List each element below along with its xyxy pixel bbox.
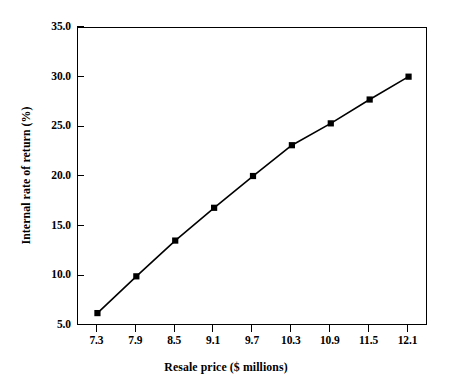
y-axis-tick-label: 5.0	[11, 319, 71, 331]
x-axis-tick	[368, 325, 369, 332]
y-axis-tick	[77, 26, 84, 27]
x-axis-title: Resale price ($ millions)	[0, 360, 452, 375]
y-axis-tick	[77, 76, 84, 77]
data-point-marker	[94, 310, 100, 316]
y-axis-tick-label-wrap: 20.0	[8, 170, 71, 182]
y-axis-title: Internal rate of return (%)	[19, 76, 34, 276]
data-series-layer	[78, 28, 428, 326]
x-axis-tick-label-wrap: 12.1	[378, 334, 438, 348]
y-axis-tick	[77, 225, 84, 226]
y-axis-tick	[77, 324, 84, 325]
x-axis-tick-label: 12.1	[378, 334, 438, 347]
x-axis-tick	[135, 325, 136, 332]
y-axis-tick-label-wrap: 10.0	[8, 269, 71, 281]
y-axis-tick-label-wrap: 5.0	[8, 319, 71, 331]
x-axis-tick	[251, 325, 252, 332]
y-axis-tick-label: 35.0	[11, 21, 71, 33]
data-point-marker	[405, 74, 411, 80]
y-axis-tick	[77, 175, 84, 176]
y-axis-tick-label-wrap: 35.0	[8, 21, 71, 33]
x-axis-tick	[407, 325, 408, 332]
data-point-marker	[172, 237, 178, 243]
data-point-marker	[289, 142, 295, 148]
plot-area	[77, 27, 427, 325]
data-point-marker	[328, 120, 334, 126]
data-point-marker	[367, 96, 373, 102]
x-axis-tick	[174, 325, 175, 332]
data-point-marker	[250, 173, 256, 179]
x-axis-tick	[290, 325, 291, 332]
x-axis-tick	[96, 325, 97, 332]
chart-figure: 5.0 10.0 15.0 20.0 25.0 30.0 35.0 7.3 7.…	[0, 0, 452, 389]
data-point-marker	[211, 205, 217, 211]
y-axis-tick	[77, 275, 84, 276]
x-axis-tick	[329, 325, 330, 332]
y-axis-tick-label-wrap: 30.0	[8, 71, 71, 83]
y-axis-tick-label-wrap: 15.0	[8, 220, 71, 232]
x-axis-tick	[212, 325, 213, 332]
y-axis-tick-label-wrap: 25.0	[8, 120, 71, 132]
data-point-marker	[133, 273, 139, 279]
series-markers	[94, 74, 411, 317]
y-axis-tick	[77, 126, 84, 127]
series-line	[97, 77, 408, 313]
